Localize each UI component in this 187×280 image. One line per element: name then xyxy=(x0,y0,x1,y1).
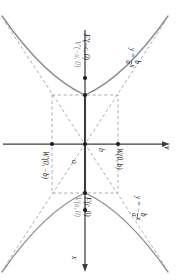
label-asymptote-negative: y = −bax xyxy=(130,196,146,220)
point-vertex-upper xyxy=(83,93,87,97)
label-covertex-left: W'(0, −b) xyxy=(41,151,48,179)
point-covertex-right xyxy=(116,142,120,146)
axis-label-y: y xyxy=(163,146,171,149)
point-covertex-left xyxy=(50,142,54,146)
label-segment-a: a xyxy=(70,160,78,164)
hyperbola-figure: F'(−c, 0) V'(−a, 0) W'(0, −b) W(0, b) V(… xyxy=(0,0,187,280)
point-vertex-lower xyxy=(83,191,87,195)
asymptote-pos-var: x xyxy=(128,64,136,67)
label-vertex-lower: V(a, 0) xyxy=(73,197,80,217)
figure-canvas xyxy=(0,0,187,280)
label-focus-lower: F(c, 0) xyxy=(83,197,90,217)
asymptote-neg-var: x xyxy=(134,217,142,220)
axis-label-x: x xyxy=(70,256,78,259)
point-focus-upper xyxy=(83,76,87,80)
point-origin xyxy=(83,142,87,146)
label-vertex-upper: V'(−a, 0) xyxy=(73,41,80,67)
label-segment-b: b xyxy=(97,148,105,152)
label-covertex-right: W(0, b) xyxy=(115,148,122,170)
label-asymptote-positive: y = bax xyxy=(124,48,140,67)
label-focus-upper: F'(−c, 0) xyxy=(82,34,89,60)
